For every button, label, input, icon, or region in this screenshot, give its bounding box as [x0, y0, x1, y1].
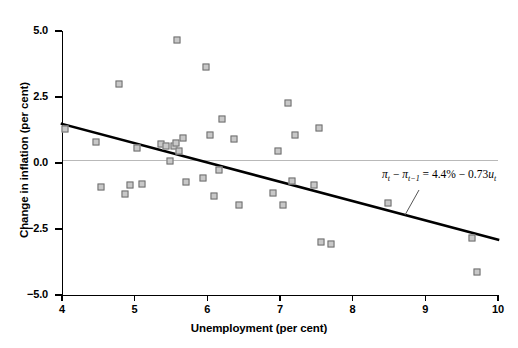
- data-point: [230, 135, 237, 142]
- data-point: [318, 238, 325, 245]
- data-point: [199, 174, 206, 181]
- data-point: [289, 178, 296, 185]
- data-point: [310, 182, 317, 189]
- scatter-chart: 5.02.50.0−2.5−5.0 45678910 Change in inf…: [0, 0, 518, 348]
- data-point: [468, 235, 475, 242]
- data-point: [139, 181, 146, 188]
- data-point: [385, 199, 392, 206]
- data-point: [172, 139, 179, 146]
- data-point: [174, 37, 181, 44]
- data-point: [175, 148, 182, 155]
- data-point: [270, 190, 277, 197]
- regression-equation-annotation: πt − πt−1 = 4.4% − 0.73ut: [382, 168, 496, 185]
- data-point: [121, 191, 128, 198]
- data-point: [279, 201, 286, 208]
- data-point: [180, 134, 187, 141]
- data-point: [134, 145, 141, 152]
- data-point: [97, 184, 104, 191]
- data-point: [182, 178, 189, 185]
- data-point: [210, 193, 217, 200]
- data-point: [315, 124, 322, 131]
- data-point: [219, 116, 226, 123]
- equation-pi-t: πt: [382, 168, 390, 180]
- data-point: [127, 182, 134, 189]
- data-point: [203, 63, 210, 70]
- data-point: [163, 142, 170, 149]
- data-point: [274, 148, 281, 155]
- equation-equals-rhs: = 4.4% − 0.73ut: [420, 168, 497, 180]
- data-point: [116, 81, 123, 88]
- data-point: [216, 167, 223, 174]
- data-point: [206, 132, 213, 139]
- data-point: [328, 241, 335, 248]
- data-point: [92, 139, 99, 146]
- equation-minus: −: [390, 168, 402, 180]
- data-point: [61, 126, 68, 133]
- data-point: [473, 268, 480, 275]
- data-point: [167, 157, 174, 164]
- data-point: [284, 100, 291, 107]
- data-point: [236, 201, 243, 208]
- equation-pi-t-1: πt−1: [402, 168, 419, 180]
- data-point: [291, 132, 298, 139]
